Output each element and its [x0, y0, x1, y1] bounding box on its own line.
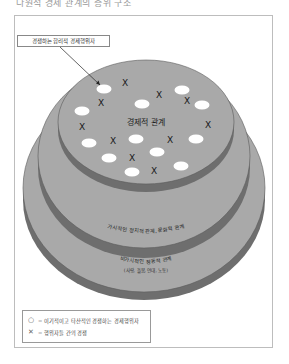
actor-oval	[150, 148, 165, 157]
competition-x-mark: X	[129, 153, 135, 163]
legend-box: ○ = 이기적이고 타산적인 경쟁하는 경제행위자 ✕ = 행위자들 간의 경쟁	[22, 310, 151, 343]
competition-x-mark: X	[156, 90, 162, 100]
competition-x-mark: X	[98, 98, 104, 108]
legend-item-competition: ✕ = 행위자들 간의 경쟁	[28, 326, 145, 338]
outer-layer-sublabel: (사랑, 돌봄, 연대, 노동)	[124, 267, 169, 274]
actor-oval	[125, 168, 140, 177]
actor-oval	[75, 107, 90, 116]
competition-x-mark: X	[167, 135, 173, 145]
callout-label-box: 경쟁하는 합리적 경제행위자	[17, 35, 110, 47]
legend-text-actor: = 이기적이고 타산적인 경쟁하는 경제행위자	[38, 317, 139, 324]
actor-oval	[230, 72, 245, 81]
competition-x-mark: X	[79, 122, 85, 132]
actor-oval	[135, 100, 150, 109]
actor-oval	[102, 154, 117, 163]
competition-x-mark: X	[122, 78, 128, 88]
x-mark-icon: ✕	[28, 328, 36, 336]
legend-text-competition: = 행위자들 간의 경쟁	[38, 329, 87, 336]
actor-oval	[195, 101, 210, 110]
actor-oval	[82, 139, 97, 148]
actor-oval	[129, 135, 144, 144]
inner-layer-label: 경제적 관계	[127, 117, 165, 127]
competition-x-mark: X	[151, 166, 157, 176]
competition-x-mark: X	[110, 136, 116, 146]
actor-oval	[189, 135, 204, 144]
circle-icon: ○	[28, 316, 36, 324]
competition-x-mark: X	[184, 96, 190, 106]
competition-x-mark: X	[205, 120, 211, 130]
actor-oval	[97, 85, 112, 94]
callout-arrow	[60, 47, 100, 85]
legend-item-actor: ○ = 이기적이고 타산적인 경쟁하는 경제행위자	[28, 314, 145, 326]
actor-oval	[175, 86, 190, 95]
callout-label: 경쟁하는 합리적 경제행위자	[32, 37, 96, 45]
actor-oval	[174, 162, 189, 171]
